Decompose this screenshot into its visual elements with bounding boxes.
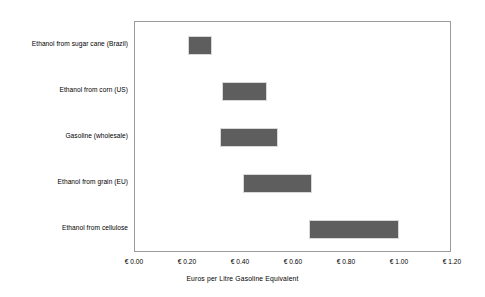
xtick-label-3: € 0.60 [263,257,323,266]
range-bar-corn [222,82,267,101]
cost-range-chart: Ethanol from sugar cane (Brazil) Ethanol… [0,0,485,297]
x-axis-title: Euros per Litre Gasoline Equivalent [0,275,485,282]
xtick-label-0: € 0.00 [104,257,164,266]
category-label-corn: Ethanol from corn (US) [59,86,128,94]
xtick-label-6: € 1.20 [422,257,482,266]
category-label-grain: Ethanol from grain (EU) [58,178,128,186]
range-bar-gasoline [220,128,278,147]
plot-area [134,21,451,252]
range-bar-cellulose [309,220,399,239]
xtick-label-4: € 0.80 [316,257,376,266]
range-bar-grain [243,174,312,193]
xtick-label-1: € 0.20 [157,257,217,266]
category-label-gasoline: Gasoline (wholesale) [65,132,128,140]
category-label-sugar-cane: Ethanol from sugar cane (Brazil) [32,40,128,48]
range-bar-sugar-cane [188,36,212,55]
xtick-label-5: € 1.00 [369,257,429,266]
xtick-label-2: € 0.40 [210,257,270,266]
category-label-cellulose: Ethanol from cellulose [62,224,128,232]
